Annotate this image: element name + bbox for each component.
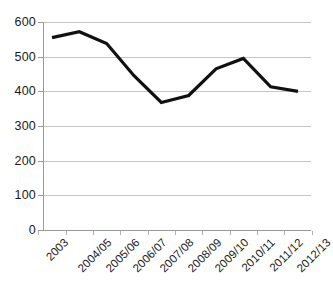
y-axis-tick bbox=[38, 57, 43, 58]
x-axis-tick bbox=[230, 231, 231, 235]
x-axis-tick bbox=[38, 231, 39, 235]
x-axis-tick bbox=[120, 231, 121, 235]
y-axis-tick bbox=[38, 126, 43, 127]
y-axis-tick bbox=[38, 22, 43, 23]
x-axis-tick bbox=[66, 231, 67, 235]
y-axis-tick bbox=[38, 91, 43, 92]
y-axis-tick bbox=[38, 161, 43, 162]
x-axis-tick bbox=[148, 231, 149, 235]
x-axis-tick bbox=[175, 231, 176, 235]
y-axis-tick bbox=[38, 195, 43, 196]
x-axis-tick bbox=[202, 231, 203, 235]
x-axis-tick bbox=[284, 231, 285, 235]
x-axis-tick bbox=[312, 231, 313, 235]
series-line bbox=[52, 32, 298, 103]
x-axis-tick bbox=[257, 231, 258, 235]
x-axis-tick bbox=[93, 231, 94, 235]
